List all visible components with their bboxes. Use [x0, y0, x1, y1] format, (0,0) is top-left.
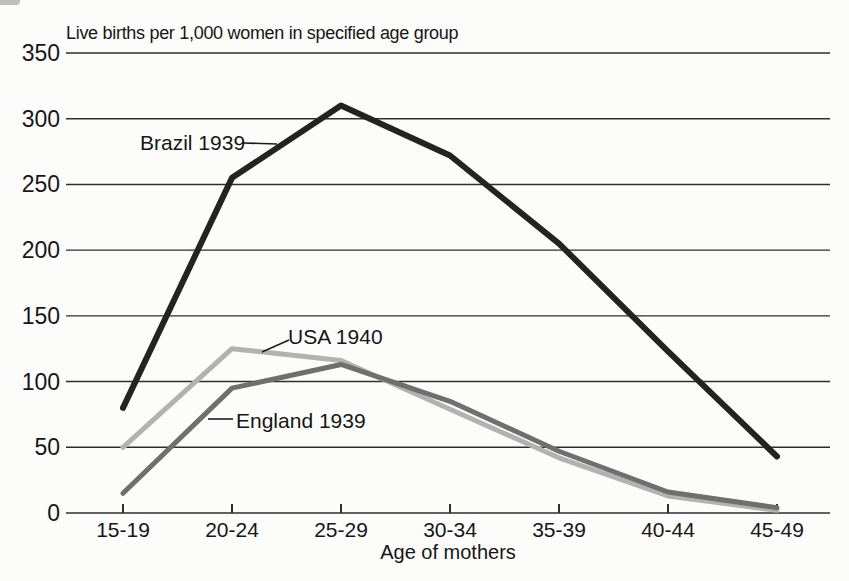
series-line-england-1939: [123, 364, 777, 507]
series-label-usa-1940: USA 1940: [288, 325, 383, 349]
y-tick-label: 50: [34, 434, 60, 460]
series-label-brazil-1939: Brazil 1939: [140, 131, 245, 155]
y-tick-label: 200: [22, 237, 60, 263]
y-tick-label: 150: [22, 303, 60, 329]
leader-line-usa-1940: [262, 340, 289, 352]
chart-page: Live births per 1,000 women in specified…: [0, 0, 849, 581]
series-line-usa-1940: [123, 349, 777, 511]
x-tick-label: 30-34: [423, 518, 477, 541]
x-tick-label: 45-49: [750, 518, 804, 541]
x-tick-label: 35-39: [532, 518, 586, 541]
series-label-england-1939: England 1939: [236, 409, 366, 433]
x-tick-label: 40-44: [641, 518, 695, 541]
y-tick-label: 300: [22, 106, 60, 132]
leader-line-brazil-1939: [243, 143, 277, 144]
line-chart: 05010015020025030035015-1920-2425-2930-3…: [0, 0, 849, 581]
x-tick-label: 20-24: [205, 518, 259, 541]
x-tick-label: 15-19: [96, 518, 150, 541]
y-tick-label: 100: [22, 369, 60, 395]
x-axis-title: Age of mothers: [66, 541, 830, 564]
x-tick-label: 25-29: [314, 518, 368, 541]
y-tick-label: 350: [22, 40, 60, 66]
y-tick-label: 0: [47, 500, 60, 526]
y-tick-label: 250: [22, 171, 60, 197]
